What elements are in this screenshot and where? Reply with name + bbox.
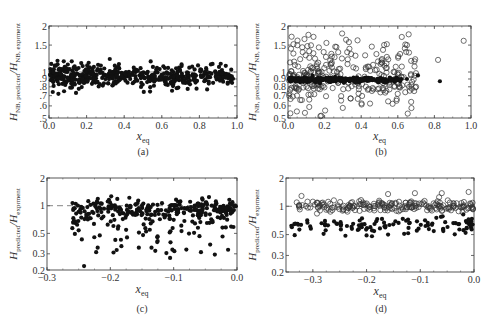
y-tick-label: 1.5 [35, 40, 48, 51]
x-tick-label: 0.0 [468, 274, 481, 285]
figure-canvas: 0.00.20.40.60.81.021.51.9.8.7.6.5xeqHNB,… [0, 0, 488, 325]
x-tick-label: 0.4 [355, 120, 368, 131]
y-axis-label: Hpredicted/Hexprment [246, 189, 261, 261]
x-axis-label: xeq [136, 129, 150, 145]
series-filled [48, 57, 235, 96]
x-axis-label: xeq [372, 129, 386, 145]
y-axis-label: HNB, predicted/HNB, exprment [246, 23, 261, 122]
x-tick-label: −0.3 [304, 274, 322, 285]
plot-frame [286, 178, 474, 272]
panel-d: −0.3−0.2−0.10.0210.50.30.2xeqHpredicted/… [246, 173, 480, 316]
x-tick-label: −0.1 [411, 274, 429, 285]
x-tick-label: 0.8 [428, 120, 441, 131]
y-tick-label: .6 [40, 100, 48, 111]
x-tick-label: 0.4 [118, 120, 131, 131]
y-tick-label: 0.2 [272, 267, 285, 278]
y-tick-label: 0.3 [33, 248, 46, 259]
x-tick-label: 0.6 [392, 120, 405, 131]
x-tick-label: −0.1 [165, 272, 183, 283]
x-tick-label: 0.0 [231, 272, 244, 283]
panel-caption: (a) [137, 146, 148, 158]
y-tick-label: 2 [40, 173, 45, 184]
panel-caption: (d) [375, 303, 387, 315]
y-tick-label: 0.5 [33, 228, 46, 239]
y-tick-label: 1 [40, 200, 45, 211]
y-tick-label: 1.5 [274, 40, 287, 51]
panel-a: 0.00.20.40.60.81.021.51.9.8.7.6.5xeqHNB,… [7, 21, 243, 159]
panel-c: −0.3−0.2−0.10.0210.50.30.2xeqHpredicted/… [7, 173, 243, 316]
y-tick-label: 0.2 [33, 265, 46, 276]
y-tick-label: 2 [281, 21, 286, 32]
x-tick-label: 0.2 [80, 120, 93, 131]
y-axis-label: HNB, predicted/HNB, exprment [7, 23, 22, 122]
panel-caption: (c) [136, 303, 147, 315]
y-tick-label: 0.5 [272, 229, 285, 240]
panel-b: 0.00.20.40.60.81.021.510.90.80.70.60.5xe… [246, 21, 477, 159]
x-tick-label: −0.2 [101, 272, 119, 283]
series-filled [70, 194, 238, 268]
x-axis-label: xeq [135, 282, 149, 298]
y-axis-label: Hpredicted/Hexprment [7, 188, 22, 260]
x-tick-label: 0.2 [318, 120, 331, 131]
y-tick-label: 1 [279, 201, 284, 212]
x-tick-label: 0.6 [156, 120, 169, 131]
y-tick-label: 0.6 [274, 100, 287, 111]
y-tick-label: 2 [42, 21, 47, 32]
y-tick-label: 2 [279, 173, 284, 184]
x-tick-label: 0.8 [193, 120, 206, 131]
x-tick-label: 1.0 [465, 120, 478, 131]
x-axis-label: xeq [373, 284, 387, 300]
y-tick-label: .5 [40, 113, 48, 124]
panel-caption: (b) [375, 146, 387, 158]
x-tick-label: 1.0 [231, 120, 244, 131]
series-open [294, 189, 475, 216]
y-tick-label: 0.3 [272, 250, 285, 261]
y-tick-label: 0.5 [274, 113, 287, 124]
